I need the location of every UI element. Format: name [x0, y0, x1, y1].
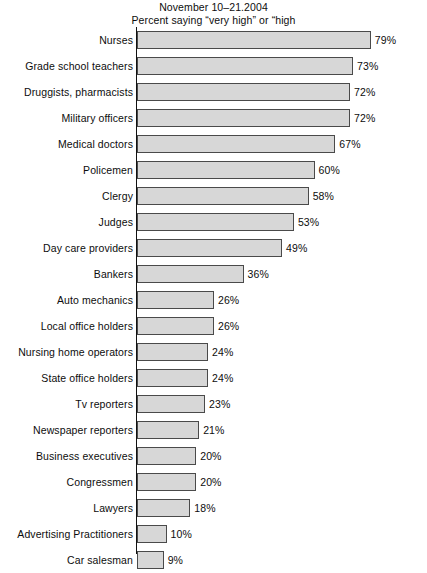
bar-category-label: Judges [0, 209, 135, 235]
bar-category-label: Nurses [0, 27, 135, 53]
bar-row: State office holders24% [0, 365, 427, 391]
bar-row: Policemen60% [0, 157, 427, 183]
bar-container: 53% [137, 209, 427, 235]
bar-container: 18% [137, 495, 427, 521]
bar-row: Congressmen20% [0, 469, 427, 495]
bar-value-label: 26% [218, 317, 239, 335]
bar-category-label: Local office holders [0, 313, 135, 339]
bar-value-label: 49% [286, 239, 307, 257]
bar [137, 135, 335, 153]
bar-container: 72% [137, 79, 427, 105]
bar-category-label: Druggists, pharmacists [0, 79, 135, 105]
bar-value-label: 10% [171, 525, 192, 543]
bar [137, 83, 350, 101]
chart-title: November 10–21.2004 [0, 1, 427, 14]
bar-value-label: 20% [200, 473, 221, 491]
bar-category-label: Lawyers [0, 495, 135, 521]
bar [137, 395, 205, 413]
bar-row: Medical doctors67% [0, 131, 427, 157]
bar-container: 21% [137, 417, 427, 443]
bar [137, 473, 196, 491]
bar-category-label: Newspaper reporters [0, 417, 135, 443]
bar [137, 57, 353, 75]
bar [137, 291, 214, 309]
bar-container: 26% [137, 313, 427, 339]
bar-value-label: 67% [339, 135, 360, 153]
bar-container: 72% [137, 105, 427, 131]
bar-category-label: Medical doctors [0, 131, 135, 157]
bar-value-label: 24% [212, 369, 233, 387]
bar-row: Nursing home operators24% [0, 339, 427, 365]
bar-row: Local office holders26% [0, 313, 427, 339]
bar-row: Lawyers18% [0, 495, 427, 521]
bar-container: 24% [137, 365, 427, 391]
bar-rows: Nurses79%Grade school teachers73%Druggis… [0, 27, 427, 573]
bar-value-label: 23% [209, 395, 230, 413]
bar-container: 9% [137, 547, 427, 573]
bar-category-label: Business executives [0, 443, 135, 469]
bar-value-label: 73% [357, 57, 378, 75]
bar [137, 369, 208, 387]
bar-row: Judges53% [0, 209, 427, 235]
bar-container: 10% [137, 521, 427, 547]
bar-value-label: 79% [375, 31, 396, 49]
bar-container: 20% [137, 443, 427, 469]
bar-category-label: Car salesman [0, 547, 135, 573]
bar [137, 343, 208, 361]
bar-container: 20% [137, 469, 427, 495]
bar [137, 213, 294, 231]
bar-value-label: 24% [212, 343, 233, 361]
bar-value-label: 72% [354, 109, 375, 127]
bar-row: Newspaper reporters21% [0, 417, 427, 443]
bar [137, 447, 196, 465]
bar-category-label: Military officers [0, 105, 135, 131]
bar-container: 67% [137, 131, 427, 157]
bar-row: Auto mechanics26% [0, 287, 427, 313]
bar-container: 24% [137, 339, 427, 365]
bar-value-label: 26% [218, 291, 239, 309]
bar-container: 73% [137, 53, 427, 79]
bar [137, 187, 309, 205]
bar-value-label: 58% [313, 187, 334, 205]
bar-value-label: 60% [319, 161, 340, 179]
bar [137, 499, 190, 517]
bar-category-label: Congressmen [0, 469, 135, 495]
bar-row: Car salesman9% [0, 547, 427, 573]
bar [137, 161, 315, 179]
bar-value-label: 9% [168, 551, 183, 569]
bar [137, 317, 214, 335]
bar-container: 60% [137, 157, 427, 183]
bar-row: Business executives20% [0, 443, 427, 469]
bar-category-label: Grade school teachers [0, 53, 135, 79]
bar-row: Advertising Practitioners10% [0, 521, 427, 547]
bar-row: Day care providers49% [0, 235, 427, 261]
bar-row: Tv reporters23% [0, 391, 427, 417]
bar-category-label: Advertising Practitioners [0, 521, 135, 547]
bar-category-label: Policemen [0, 157, 135, 183]
bar-container: 36% [137, 261, 427, 287]
bar [137, 525, 167, 543]
bar-category-label: Clergy [0, 183, 135, 209]
bar [137, 551, 164, 569]
bar [137, 109, 350, 127]
bar [137, 265, 244, 283]
bar-container: 26% [137, 287, 427, 313]
bar-category-label: Nursing home operators [0, 339, 135, 365]
bar-value-label: 20% [200, 447, 221, 465]
bar-category-label: Bankers [0, 261, 135, 287]
bar-value-label: 18% [194, 499, 215, 517]
bar-value-label: 21% [203, 421, 224, 439]
bar [137, 421, 199, 439]
bar-row: Nurses79% [0, 27, 427, 53]
bar [137, 239, 282, 257]
bar-row: Clergy58% [0, 183, 427, 209]
bar-container: 79% [137, 27, 427, 53]
bar-row: Military officers72% [0, 105, 427, 131]
bar-category-label: Tv reporters [0, 391, 135, 417]
bar-category-label: Auto mechanics [0, 287, 135, 313]
bar-container: 49% [137, 235, 427, 261]
bar-value-label: 53% [298, 213, 319, 231]
bar-row: Bankers36% [0, 261, 427, 287]
bar-value-label: 36% [248, 265, 269, 283]
